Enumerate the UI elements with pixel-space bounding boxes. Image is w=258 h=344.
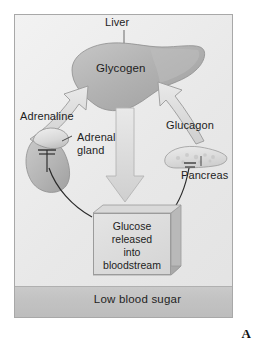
glucose-box-line-1: Glucose [94,220,170,233]
glucose-box-line-3: into [94,246,170,259]
adrenal-gland-label: Adrenal gland [77,131,123,156]
glucose-box-line-4: bloodstream [94,259,170,272]
glucose-released-box: Glucose released into bloodstream [93,213,171,275]
liver-label: Liver [105,16,129,29]
glycogen-label: Glycogen [96,62,145,75]
low-blood-sugar-band: Low blood sugar [15,286,232,317]
glucagon-label: Glucagon [166,119,214,132]
glucose-box-text: Glucose released into bloodstream [94,220,170,272]
adrenaline-label: Adrenaline [20,110,74,123]
glucose-box-line-2: released [94,233,170,246]
pancreas-label: Pancreas [181,169,228,182]
plate-label: A [242,326,251,342]
figure-panel-a: Low blood sugar [0,0,258,344]
low-blood-sugar-label: Low blood sugar [15,293,232,305]
